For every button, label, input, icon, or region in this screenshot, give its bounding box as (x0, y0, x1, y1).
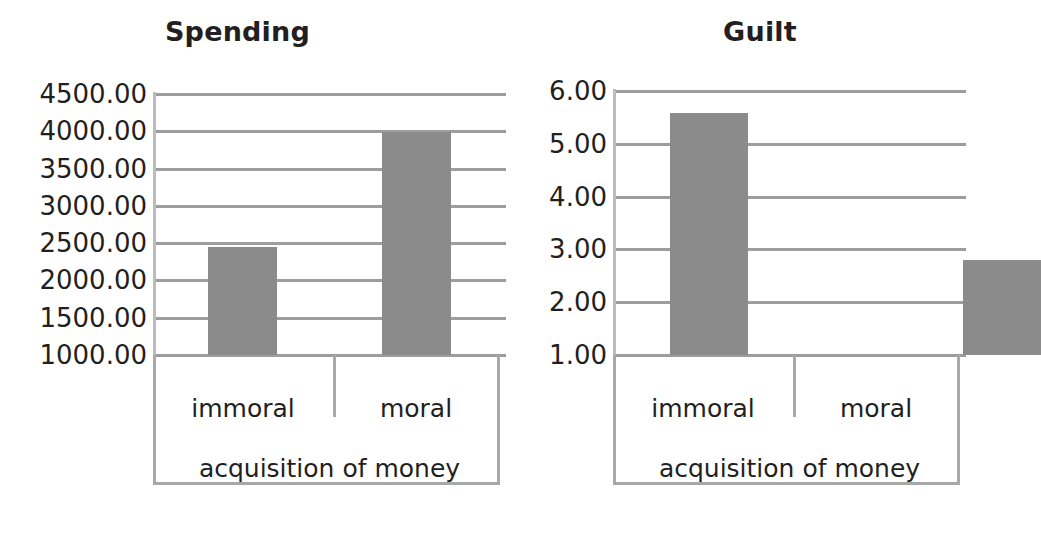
y-axis-tick-label: 2500.00 (39, 230, 147, 256)
gridline (613, 248, 966, 251)
gridline (153, 130, 506, 133)
chart-panel-guilt: Guilt 6.005.004.003.002.001.00 immoralmo… (515, 0, 1029, 537)
gridline (613, 90, 966, 93)
y-axis-tick-label: 1000.00 (39, 342, 147, 368)
x-axis-title: acquisition of money (199, 456, 460, 481)
y-axis-tick-label: 2.00 (549, 289, 607, 315)
y-axis-tick-label: 6.00 (549, 78, 607, 104)
chart-title-guilt: Guilt (503, 16, 1017, 47)
y-axis-tick-label: 3.00 (549, 236, 607, 262)
chart-panel-spending: Spending 4500.004000.003500.003000.00250… (0, 0, 515, 537)
category-separator-tick (793, 355, 796, 417)
category-label-immoral: immoral (191, 396, 295, 421)
gridline (613, 301, 966, 304)
gridline (153, 242, 506, 245)
category-separator-tick (333, 355, 336, 417)
category-label-moral: moral (840, 396, 912, 421)
bar-immoral (670, 113, 748, 355)
y-axis-tick-label: 4500.00 (39, 81, 147, 107)
chart-title-spending: Spending (0, 16, 495, 47)
y-axis-line (613, 89, 616, 359)
bar-immoral (208, 247, 277, 355)
gridline (613, 143, 966, 146)
bar-moral (963, 260, 1041, 355)
y-axis-tick-label: 3500.00 (39, 156, 147, 182)
gridline (153, 168, 506, 171)
y-axis-tick-label: 1.00 (549, 342, 607, 368)
x-axis-title: acquisition of money (659, 456, 920, 481)
gridline (153, 93, 506, 96)
y-axis-tick-label: 5.00 (549, 131, 607, 157)
category-axis-spending: immoralmoralacquisition of money (153, 355, 500, 485)
gridline (613, 196, 966, 199)
gridline (153, 205, 506, 208)
y-axis-tick-label: 2000.00 (39, 267, 147, 293)
plot-area-spending: 4500.004000.003500.003000.002500.002000.… (153, 94, 506, 355)
gridline (153, 279, 506, 282)
category-axis-guilt: immoralmoralacquisition of money (613, 355, 960, 485)
category-label-immoral: immoral (651, 396, 755, 421)
bar-moral (382, 132, 451, 355)
y-axis-tick-label: 3000.00 (39, 193, 147, 219)
y-axis-tick-label: 4.00 (549, 184, 607, 210)
y-axis-tick-label: 4000.00 (39, 118, 147, 144)
y-axis-line (153, 92, 156, 359)
category-label-moral: moral (380, 396, 452, 421)
plot-area-guilt: 6.005.004.003.002.001.00 (613, 91, 966, 355)
y-axis-tick-label: 1500.00 (39, 305, 147, 331)
gridline (153, 317, 506, 320)
